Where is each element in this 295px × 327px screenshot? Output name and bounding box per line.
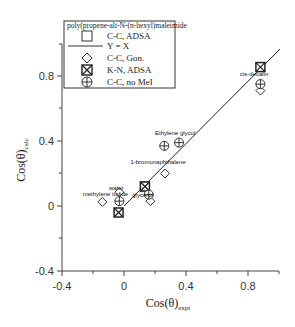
point-annotation: methylene iodide [83, 191, 129, 197]
point-annotation: cis-decalin [240, 71, 268, 77]
boxed-x-point [114, 208, 123, 217]
legend: poly(propene-alt-N-(n-hexyl)maleimide C-… [64, 21, 188, 88]
crossed-circle-point [115, 197, 124, 206]
crossed-circle-point [160, 141, 169, 150]
scatter-chart: 0.8 0.4 0 -0.4 Cos(θ)calc -0.4 0 0.4 0.8… [0, 0, 295, 327]
x-tick-label: 0.8 [240, 280, 255, 292]
legend-item: C-C, Gon. [107, 53, 144, 63]
legend-item: K-N, ADSA [107, 65, 152, 75]
diamond-point [161, 169, 170, 178]
annotations: watermethylene iodideglycerol1-bromonaph… [83, 71, 269, 198]
legend-title: poly(propene-alt-N-(n-hexyl)maleimide [67, 21, 188, 30]
boxed-x-point [140, 182, 149, 191]
x-axis-title: Cos(θ)expt [146, 296, 191, 312]
y-tick-label: -0.4 [35, 265, 54, 277]
x-tick-label: -0.4 [53, 280, 72, 292]
y-tick-label: 0 [48, 200, 54, 212]
x-tick-label: 0.4 [178, 280, 193, 292]
legend-item: C-C, no MeI [107, 77, 153, 87]
crossed-circle-point [256, 80, 265, 89]
x-axis: -0.4 0 0.4 0.8 Cos(θ)expt [53, 271, 279, 312]
crossed-circle-point [175, 138, 184, 147]
y-axis-title: Cos(θ)calc [14, 138, 30, 182]
crossed-circle-icon [82, 77, 92, 87]
legend-item: Y = X [107, 41, 130, 51]
point-annotation: 1-bromonaphthalene [130, 159, 186, 165]
x-tick-label: 0 [121, 280, 127, 292]
svg-text:Cos(θ)calc: Cos(θ)calc [14, 138, 30, 182]
y-tick-label: 0.4 [39, 135, 54, 147]
point-annotation: Ethylene glycol [155, 130, 195, 136]
diamond-point [98, 197, 107, 206]
legend-item: C-C, ADSA [107, 31, 151, 41]
point-annotation: glycerol [132, 192, 153, 198]
point-annotation: water [108, 185, 124, 191]
y-tick-label: 0.8 [39, 70, 54, 82]
y-axis: 0.8 0.4 0 -0.4 Cos(θ)calc [14, 44, 62, 277]
